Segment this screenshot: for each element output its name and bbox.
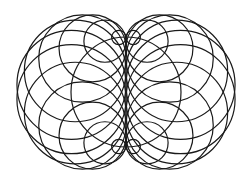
circle-envelope-drawing [0,0,252,183]
diagram-canvas [0,0,252,183]
generated-circles [17,15,235,169]
